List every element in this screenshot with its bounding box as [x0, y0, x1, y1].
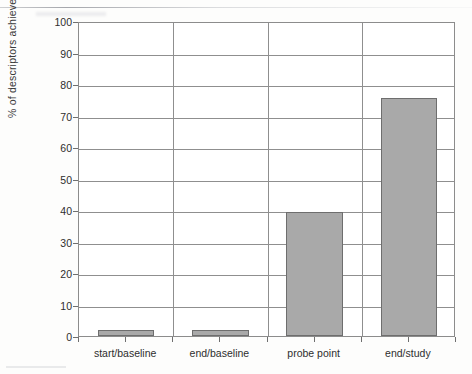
y-axis-tick-label: 100	[38, 16, 72, 28]
gridline-horizontal	[79, 55, 454, 56]
y-axis-tick-label: 50	[38, 174, 72, 186]
gridline-vertical	[173, 23, 174, 336]
y-axis-tick-mark	[73, 22, 78, 23]
y-axis-tick-mark	[73, 54, 78, 55]
y-axis-tick-label: 30	[38, 237, 72, 249]
gridline-vertical	[268, 23, 269, 336]
bar-end-study	[381, 98, 438, 336]
y-axis-tick-mark	[73, 306, 78, 307]
x-axis-tick-label: probe point	[287, 347, 340, 359]
scan-artifact-line-top	[0, 7, 472, 8]
y-axis-tick-mark	[73, 148, 78, 149]
x-axis-tick-label: end/baseline	[190, 347, 250, 359]
y-axis-tick-mark	[73, 85, 78, 86]
y-axis-tick-mark	[73, 211, 78, 212]
y-axis-tick-label: 0	[38, 331, 72, 343]
bar-probe-point	[286, 212, 343, 336]
x-axis-tick-label: start/baseline	[94, 347, 156, 359]
y-axis-tick-label: 10	[38, 300, 72, 312]
plot-area	[78, 22, 455, 337]
x-axis-tick-mark	[408, 337, 409, 342]
gridline-horizontal	[79, 86, 454, 87]
bar-end-baseline	[192, 330, 249, 336]
x-axis-boundary-tick-mark	[455, 337, 456, 342]
x-axis-tick-label: end/study	[385, 347, 431, 359]
y-axis-tick-mark	[73, 180, 78, 181]
chart-figure: % of descriptors achieved 01020304050607…	[0, 0, 472, 374]
x-axis-boundary-tick-mark	[78, 337, 79, 342]
y-axis-title: % of descriptors achieved	[6, 0, 18, 118]
bar-start-baseline	[98, 330, 155, 336]
x-axis-tick-mark	[219, 337, 220, 342]
y-axis-tick-label: 60	[38, 142, 72, 154]
x-axis-boundary-tick-mark	[361, 337, 362, 342]
y-axis-tick-label: 80	[38, 79, 72, 91]
x-axis-tick-mark	[125, 337, 126, 342]
gridline-vertical	[362, 23, 363, 336]
y-axis-tick-label: 90	[38, 48, 72, 60]
y-axis-tick-label: 20	[38, 268, 72, 280]
x-axis-boundary-tick-mark	[267, 337, 268, 342]
x-axis-boundary-tick-mark	[172, 337, 173, 342]
y-axis-tick-mark	[73, 274, 78, 275]
scan-artifact-line-bottom	[6, 366, 66, 368]
y-axis-tick-mark	[73, 117, 78, 118]
y-axis-tick-mark	[73, 243, 78, 244]
y-axis-tick-label: 70	[38, 111, 72, 123]
y-axis-tick-label: 40	[38, 205, 72, 217]
x-axis-tick-mark	[314, 337, 315, 342]
